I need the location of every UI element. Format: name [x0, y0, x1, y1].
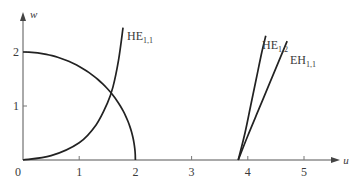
x-axis-arrow-icon — [331, 157, 340, 163]
series-label-he-1-1: HE1,1 — [127, 29, 153, 45]
chart-container: uw01234512HE1,1HE1,2EH1,1 — [0, 0, 353, 184]
x-tick-label: 5 — [301, 165, 307, 179]
curve-he-1-2 — [238, 36, 266, 160]
x-tick-label: 2 — [132, 165, 138, 179]
series-label-he-1-2: HE1,2 — [262, 38, 288, 54]
x-axis-label: u — [343, 154, 349, 166]
curve-he-1-1 — [23, 28, 123, 160]
curve-circle — [23, 52, 135, 160]
y-axis-arrow-icon — [20, 12, 26, 21]
x-tick-label: 4 — [245, 165, 251, 179]
y-tick-label: 2 — [13, 45, 19, 59]
y-tick-label: 1 — [13, 99, 19, 113]
x-tick-label: 0 — [15, 165, 21, 179]
curve-eh-1-1 — [238, 41, 287, 160]
y-axis-label: w — [30, 8, 38, 20]
x-tick-label: 3 — [189, 165, 195, 179]
series-label-eh-1-1: EH1,1 — [290, 53, 316, 69]
x-tick-label: 1 — [76, 165, 82, 179]
dispersion-chart: uw01234512HE1,1HE1,2EH1,1 — [0, 0, 353, 184]
